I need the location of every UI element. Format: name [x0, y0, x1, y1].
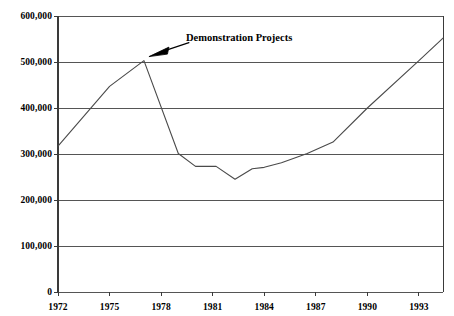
chart-figure: 0100,000200,000300,000400,000500,000600,… — [0, 0, 454, 316]
y-tick-label: 400,000 — [20, 103, 52, 113]
x-tick-label: 1981 — [203, 302, 222, 312]
y-tick-label-wrap: 200,000 — [0, 195, 52, 205]
x-tick-label-wrap: 1987 — [296, 296, 336, 308]
x-tick-label-wrap: 1975 — [90, 296, 130, 308]
y-tick-label-wrap: 500,000 — [0, 57, 52, 67]
x-tick-label-wrap: 1978 — [141, 296, 181, 308]
y-tick-label-wrap: 100,000 — [0, 241, 52, 251]
y-tick-label: 600,000 — [20, 11, 52, 21]
y-tick-label-wrap: 300,000 — [0, 149, 52, 159]
x-tick-label-wrap: 1981 — [193, 296, 233, 308]
y-tick-label-wrap: 600,000 — [0, 11, 52, 21]
y-tick-label: 100,000 — [20, 241, 52, 251]
annotation-demonstration-projects-label: Demonstration Projects — [186, 32, 292, 44]
x-tick-label: 1972 — [48, 302, 67, 312]
x-tick-label: 1990 — [358, 302, 377, 312]
data-series-line — [58, 38, 443, 179]
x-tick-label: 1987 — [306, 302, 325, 312]
data-series-line-group — [58, 38, 443, 179]
x-tick-label: 1993 — [409, 302, 428, 312]
x-tick-label: 1984 — [255, 302, 274, 312]
annotation-arrow-head — [149, 47, 169, 57]
y-tick-label-wrap: 400,000 — [0, 103, 52, 113]
y-tick-label: 200,000 — [20, 195, 52, 205]
x-tick-label-wrap: 1990 — [347, 296, 387, 308]
y-tick-label: 300,000 — [20, 149, 52, 159]
annotation-arrow-group — [149, 43, 189, 57]
x-tick-label: 1975 — [100, 302, 119, 312]
chart-canvas — [0, 0, 454, 316]
x-tick-label-wrap: 1972 — [38, 296, 78, 308]
x-tick-label-wrap: 1993 — [399, 296, 439, 308]
x-tick-label-wrap: 1984 — [244, 296, 284, 308]
x-tick-label: 1978 — [151, 302, 170, 312]
gridlines-group — [58, 16, 443, 292]
y-tick-label: 500,000 — [20, 57, 52, 67]
